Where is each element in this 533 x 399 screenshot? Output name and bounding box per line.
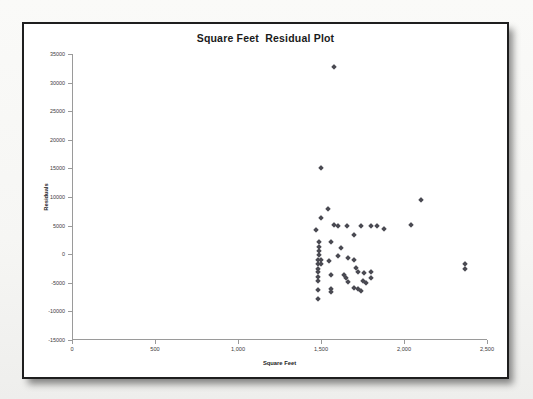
data-point (338, 245, 344, 251)
scan-ghost-text (40, 381, 460, 397)
x-tick-label: 1,500 (314, 346, 328, 352)
data-point (328, 239, 334, 245)
x-tick (487, 340, 488, 344)
data-point (351, 232, 357, 238)
data-point (418, 197, 424, 203)
data-point (361, 270, 367, 276)
data-point (335, 254, 341, 260)
data-point (315, 296, 321, 302)
data-point (355, 269, 361, 275)
y-tick-label: 35000 (50, 51, 65, 57)
data-point (331, 64, 337, 70)
y-tick-label: -15000 (48, 337, 65, 343)
x-tick-label: 1,000 (231, 346, 245, 352)
data-point (316, 239, 322, 245)
y-tick (68, 54, 72, 55)
data-point (318, 215, 324, 221)
y-tick (68, 111, 72, 112)
x-axis-line (72, 339, 487, 340)
x-tick (72, 340, 73, 344)
x-tick (404, 340, 405, 344)
data-point (462, 266, 468, 272)
y-tick-label: 30000 (50, 80, 65, 86)
y-axis-title: Residuals (43, 183, 49, 210)
y-tick (68, 226, 72, 227)
data-point (374, 223, 380, 229)
data-point (408, 222, 414, 228)
y-tick-label: 20000 (50, 137, 65, 143)
y-tick-label: -10000 (48, 308, 65, 314)
data-point (358, 288, 364, 294)
data-point (328, 272, 334, 278)
data-point (315, 287, 321, 293)
x-tick (321, 340, 322, 344)
x-tick (238, 340, 239, 344)
y-tick (68, 254, 72, 255)
y-tick-label: 25000 (50, 108, 65, 114)
y-tick-label: 0 (62, 251, 65, 257)
data-point (326, 258, 332, 264)
chart-title: Square Feet Residual Plot (24, 32, 507, 44)
y-tick-label: -5000 (51, 280, 65, 286)
y-tick-label: 15000 (50, 165, 65, 171)
y-tick (68, 197, 72, 198)
data-point (381, 226, 387, 232)
data-point (358, 223, 364, 229)
y-tick (68, 83, 72, 84)
data-point (351, 258, 357, 264)
y-axis-line (72, 54, 73, 340)
data-point (344, 223, 350, 229)
data-point (328, 289, 334, 295)
y-tick (68, 140, 72, 141)
x-tick (155, 340, 156, 344)
data-point (318, 165, 324, 171)
data-point (326, 206, 332, 212)
y-tick (68, 168, 72, 169)
data-point (313, 227, 319, 233)
x-tick-label: 2,000 (397, 346, 411, 352)
data-point (315, 278, 321, 284)
data-point (368, 223, 374, 229)
data-point (363, 280, 369, 286)
y-tick-label: 10000 (50, 194, 65, 200)
x-tick-label: 0 (70, 346, 73, 352)
y-tick-label: 5000 (53, 223, 65, 229)
data-point (368, 275, 374, 281)
chart-canvas: Square Feet Residual Plot -15000-10000-5… (24, 24, 507, 377)
y-tick (68, 311, 72, 312)
plot-area: -15000-10000-500005000100001500020000250… (72, 54, 487, 340)
y-tick (68, 283, 72, 284)
x-axis-title: Square Feet (72, 360, 487, 366)
chart-frame: Square Feet Residual Plot -15000-10000-5… (22, 22, 509, 379)
x-tick-label: 500 (150, 346, 159, 352)
x-tick-label: 2,500 (480, 346, 494, 352)
data-point (345, 255, 351, 261)
